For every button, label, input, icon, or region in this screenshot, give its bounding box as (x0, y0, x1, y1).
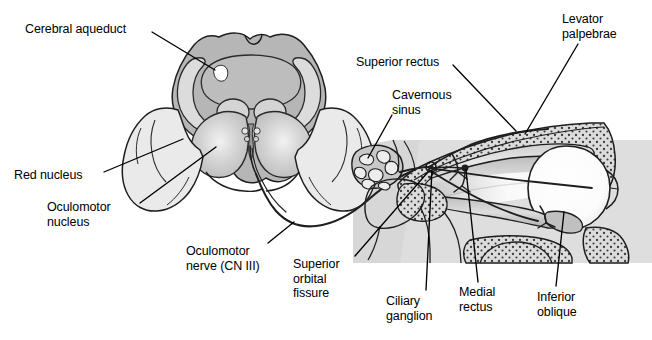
label-ciliary-ganglion: Ciliary ganglion (386, 294, 432, 323)
label-levator-palpebrae: Levator palpebrae (562, 12, 617, 41)
label-red-nucleus: Red nucleus (14, 168, 82, 183)
leader-superior-rectus (453, 65, 516, 131)
leader-levator-palpebrae (525, 44, 578, 134)
label-oculomotor-nerve: Oculomotor nerve (CN III) (186, 244, 260, 273)
periaqueductal-gray (201, 55, 300, 109)
label-superior-rectus: Superior rectus (356, 55, 439, 70)
cerebral-aqueduct-lumen (214, 65, 228, 81)
leader-oculomotor-nerve (268, 222, 294, 243)
label-oculomotor-nucleus: Oculomotor nucleus (47, 200, 111, 229)
anatomy-figure-root: Cerebral aqueduct Red nucleus Oculomotor… (0, 0, 652, 340)
label-cavernous-sinus: Cavernous sinus (392, 88, 452, 117)
label-superior-orbital-fissure: Superior orbital fissure (293, 257, 339, 301)
label-medial-rectus: Medial rectus (459, 285, 495, 314)
label-inferior-oblique: Inferior oblique (537, 290, 577, 319)
label-cerebral-aqueduct: Cerebral aqueduct (25, 22, 126, 37)
